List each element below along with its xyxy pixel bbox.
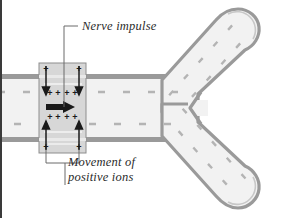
svg-text:+: + <box>47 112 52 122</box>
label-movement-of-positive-ions: Movement of positive ions <box>68 155 178 185</box>
axon-shaft-fill <box>2 74 178 142</box>
axon-branch-upper <box>162 9 259 112</box>
label-nerve-impulse: Nerve impulse <box>82 19 156 34</box>
svg-text:+: + <box>64 112 69 122</box>
svg-text:+: + <box>64 88 69 98</box>
upper-branch-body <box>162 9 259 112</box>
svg-text:+: + <box>55 88 60 98</box>
axon-shaft <box>2 74 178 142</box>
svg-text:+: + <box>72 112 77 122</box>
svg-text:+: + <box>55 112 60 122</box>
neuron-impulse-figure: + + + + + + + + + + + + <box>0 0 283 218</box>
label-movement-line-2: positive ions <box>68 170 178 185</box>
label-movement-line-1: Movement of <box>68 155 178 170</box>
